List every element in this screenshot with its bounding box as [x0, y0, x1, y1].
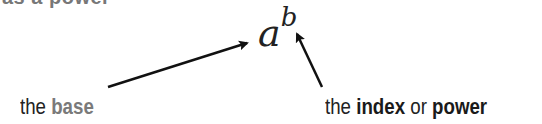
label-base: the base	[20, 94, 94, 120]
label-base-prefix: the	[20, 94, 51, 119]
label-power-term: power	[432, 94, 487, 119]
label-index-term: index	[356, 94, 405, 119]
label-index-prefix: the	[325, 94, 356, 119]
arrow-to-exponent	[297, 34, 322, 87]
label-base-term: base	[51, 94, 94, 119]
arrow-to-base	[108, 43, 247, 87]
label-index-joiner: or	[405, 94, 432, 119]
label-index-or-power: the index or power	[325, 94, 487, 120]
